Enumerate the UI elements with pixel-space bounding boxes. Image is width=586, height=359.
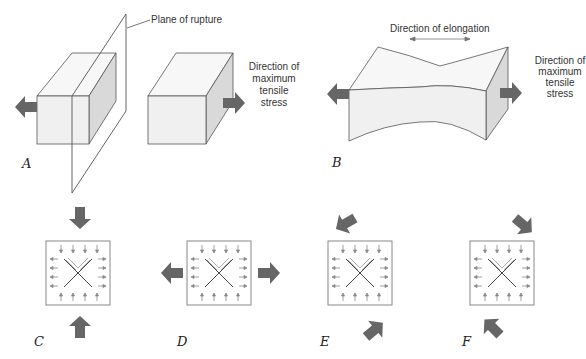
panel-a-block-right bbox=[148, 53, 233, 144]
svg-text:stress: stress bbox=[547, 88, 574, 99]
panel-label-c: C bbox=[34, 334, 44, 349]
elongation-arrow bbox=[410, 37, 470, 41]
plane-leader-line bbox=[127, 20, 150, 28]
svg-text:maximum: maximum bbox=[538, 66, 581, 77]
svg-text:tensile: tensile bbox=[260, 85, 289, 96]
svg-text:Direction of: Direction of bbox=[535, 55, 586, 66]
panel-label-d: D bbox=[176, 334, 188, 349]
panel-b-block bbox=[349, 47, 508, 141]
stress-box-f bbox=[470, 241, 534, 305]
svg-text:stress: stress bbox=[261, 97, 288, 108]
direction-label-b: Direction of maximum tensile stress bbox=[535, 55, 586, 99]
direction-elongation-label: Direction of elongation bbox=[390, 23, 490, 34]
panel-a-block bbox=[37, 53, 116, 144]
rupture-diagram: Plane of rupture Direction of maximum te… bbox=[0, 0, 586, 359]
svg-text:Direction of: Direction of bbox=[249, 61, 300, 72]
svg-text:maximum: maximum bbox=[252, 73, 295, 84]
top-arrow-c bbox=[69, 207, 91, 229]
direction-label-a: Direction of maximum tensile stress bbox=[249, 61, 300, 108]
stress-box-e bbox=[328, 241, 392, 305]
right-arrow-d bbox=[258, 262, 280, 284]
left-arrow-d bbox=[161, 262, 183, 284]
stress-box-d bbox=[187, 241, 251, 305]
bottom-left-arrow-f bbox=[477, 312, 508, 343]
top-right-arrow-f bbox=[508, 210, 539, 241]
panel-label-b: B bbox=[331, 155, 342, 170]
panel-label-a: A bbox=[21, 156, 31, 171]
bottom-right-arrow-e bbox=[359, 314, 390, 345]
stress-box-c bbox=[46, 241, 110, 305]
plane-of-rupture-label: Plane of rupture bbox=[151, 14, 223, 25]
panel-label-f: F bbox=[461, 334, 472, 349]
panel-label-e: E bbox=[319, 334, 330, 349]
left-arrow-b bbox=[327, 83, 349, 105]
svg-text:tensile: tensile bbox=[546, 77, 575, 88]
bottom-arrow-c bbox=[69, 316, 91, 338]
top-left-arrow-e bbox=[330, 208, 360, 238]
left-arrow-a bbox=[15, 96, 37, 118]
